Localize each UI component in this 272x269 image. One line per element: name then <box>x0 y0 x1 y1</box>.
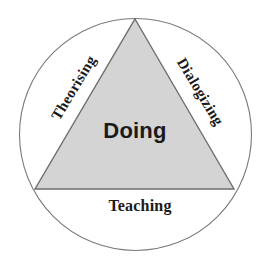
diagram-container: Doing Teaching Theorising Dialogizing <box>0 0 272 269</box>
label-teaching: Teaching <box>108 198 171 214</box>
label-doing: Doing <box>103 120 166 142</box>
